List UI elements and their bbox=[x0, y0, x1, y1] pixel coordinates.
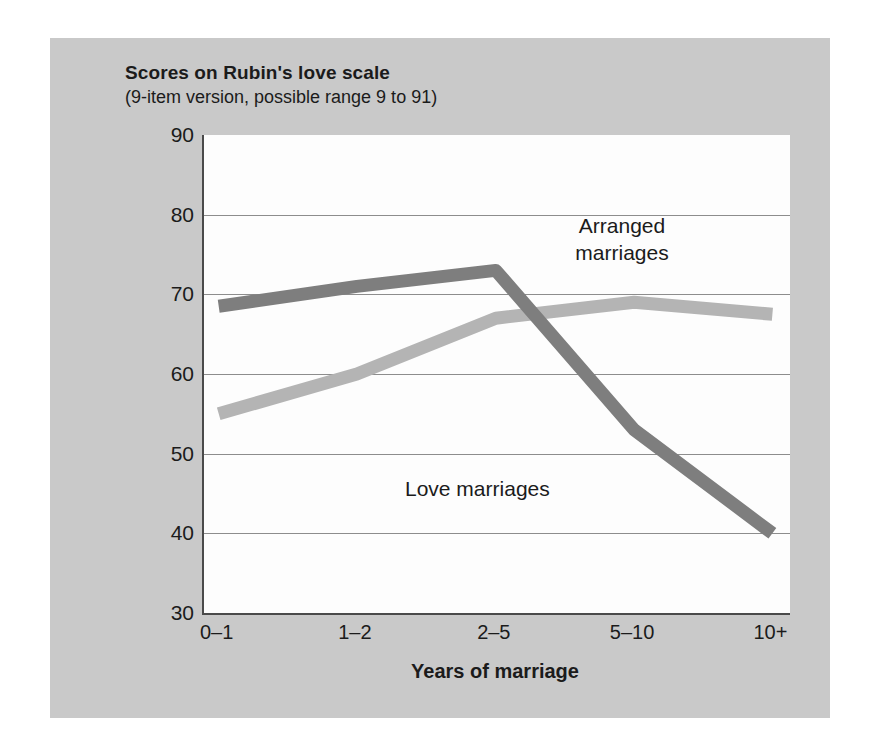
y-tick-80: 80 bbox=[150, 203, 194, 227]
y-tick-60: 60 bbox=[150, 362, 194, 386]
x-axis-title: Years of marriage bbox=[202, 660, 788, 683]
x-tick-2-5: 2–5 bbox=[477, 621, 510, 644]
x-tick-5-10: 5–10 bbox=[610, 621, 655, 644]
y-tick-50: 50 bbox=[150, 442, 194, 466]
chart-subtitle: (9-item version, possible range 9 to 91) bbox=[125, 85, 725, 109]
x-tick-10-plus: 10+ bbox=[753, 621, 787, 644]
x-tick-0-1: 0–1 bbox=[200, 621, 233, 644]
annotation-arranged-marriages: Arranged marriages bbox=[542, 212, 702, 266]
annotation-love-marriages: Love marriages bbox=[405, 475, 635, 502]
x-axis-tick-labels: 0–1 1–2 2–5 5–10 10+ bbox=[202, 621, 788, 651]
y-axis-tick-labels: 90 80 70 60 50 40 30 bbox=[138, 135, 194, 613]
chart-title: Scores on Rubin's love scale bbox=[125, 61, 725, 85]
y-tick-70: 70 bbox=[150, 282, 194, 306]
y-tick-30: 30 bbox=[150, 601, 194, 625]
series-line-arranged-marriages bbox=[219, 302, 773, 414]
chart-figure-panel: Scores on Rubin's love scale (9-item ver… bbox=[50, 38, 830, 718]
x-tick-1-2: 1–2 bbox=[338, 621, 371, 644]
chart-title-block: Scores on Rubin's love scale (9-item ver… bbox=[125, 61, 725, 109]
y-tick-40: 40 bbox=[150, 521, 194, 545]
y-tick-90: 90 bbox=[150, 123, 194, 147]
plot-area bbox=[202, 135, 790, 615]
series-lines bbox=[204, 135, 790, 613]
